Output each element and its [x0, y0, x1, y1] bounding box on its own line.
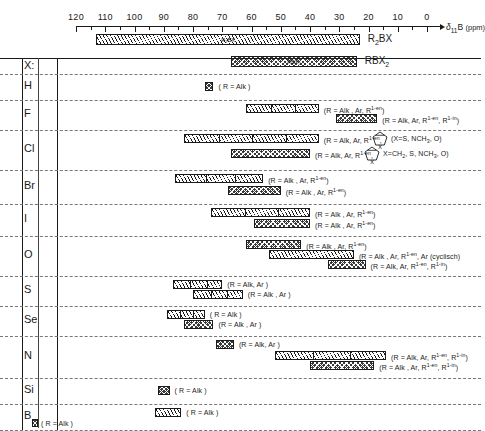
range-bar-hatch — [275, 351, 386, 360]
bar-segment-divider — [211, 291, 212, 298]
range-bar-cross — [184, 320, 213, 329]
bar-segment-divider — [180, 311, 181, 318]
bar-caption: (R = Alk , Ar, R1-en) — [306, 241, 367, 250]
bar-caption: (R = Alk , Ar, R1-en) — [315, 220, 376, 229]
bar-segment-divider — [227, 291, 228, 298]
bar-segment-divider — [206, 175, 207, 182]
grid-line-Se — [0, 306, 481, 307]
grid-line-Si — [0, 378, 481, 379]
grid-line-Br — [0, 170, 481, 171]
bar-caption: (R = Alk , Ar, R1-en) — [315, 209, 376, 218]
grid-line-I — [0, 204, 481, 205]
ring-annotation: (X=S, NCH3, O) — [391, 135, 442, 144]
grid-line-F — [0, 100, 481, 101]
row-label-N: N — [24, 349, 32, 361]
bar-segment-divider — [235, 175, 236, 182]
grid-line-S — [0, 276, 481, 277]
range-bar-hatch — [211, 208, 310, 217]
range-bar-cross — [32, 419, 38, 427]
bar-caption: (R = Alk , Ar, R1-en) — [324, 105, 385, 114]
label-column-right-rule — [57, 58, 58, 430]
bar-caption: ( R = Alk ) — [41, 420, 73, 427]
bar-segment-divider — [350, 352, 351, 359]
bar-caption: ( R = Alk ) — [218, 83, 250, 90]
bar-caption: (R = Alk, Ar, R1-en, R1-in) — [382, 115, 459, 124]
bar-segment-divider — [271, 105, 272, 112]
bar-caption: ( R = Alk ) — [210, 311, 242, 318]
bar-segment-divider — [190, 281, 191, 288]
grid-line-H — [0, 74, 481, 75]
range-bar-hatch — [173, 280, 223, 289]
range-bar-cross — [254, 219, 310, 228]
row-label-S: S — [24, 283, 31, 295]
bar-segment-divider — [245, 209, 246, 216]
bar-segment-divider — [219, 135, 220, 142]
range-bar-hatch — [167, 310, 205, 319]
bar-caption: (R = Alk , Ar, R1-en, R1-in) — [379, 362, 458, 371]
bar-caption: (R = Alk, Ar, R1-en, R1-in) — [371, 261, 448, 270]
bar-caption: (R = Alk , Ar, R1-en) — [286, 187, 347, 196]
range-bar-cross — [228, 186, 281, 195]
bar-segment-divider — [193, 311, 194, 318]
row-label-I: I — [24, 212, 27, 224]
grid-line-O — [0, 236, 481, 237]
bar-segment-divider — [295, 105, 296, 112]
ring-annotation: X=CH2, S, NCH3, O) — [383, 150, 449, 159]
vertical-guide-line — [38, 58, 39, 428]
row-label-Cl: Cl — [24, 142, 34, 154]
row-label-O: O — [24, 248, 33, 260]
range-bar-hatch — [175, 174, 263, 183]
range-bar-hatch — [269, 250, 354, 259]
bar-caption: (R = Alk, Ar ) — [227, 281, 268, 288]
range-bar-cross — [328, 260, 366, 269]
row-label-Si: Si — [24, 383, 34, 395]
range-bar-cross — [246, 240, 302, 249]
grid-line-Cl — [0, 130, 481, 131]
row-label-Br: Br — [24, 179, 35, 191]
bar-caption: (R = Alk, Ar, R1-en, R1-in) — [391, 352, 468, 361]
grid-line-top — [0, 58, 481, 59]
range-bar-hatch — [184, 134, 319, 143]
bar-segment-divider — [207, 281, 208, 288]
bar-segment-divider — [313, 352, 314, 359]
row-label-Se: Se — [24, 313, 37, 325]
row-label-X: X: — [24, 59, 34, 71]
range-bar-hatch — [246, 104, 319, 113]
bar-segment-divider — [278, 209, 279, 216]
range-bar-hatch — [155, 408, 181, 417]
bar-caption: (R = Alk, Ar ) — [239, 341, 280, 348]
bar-caption: (R = Alk , Ar ) — [248, 291, 291, 298]
bar-caption: (R = Alk , Ar, R1-en) — [268, 175, 329, 184]
grid-line-N — [0, 336, 481, 337]
range-bar-cross — [216, 340, 234, 349]
range-bar-cross — [336, 114, 377, 123]
row-label-F: F — [24, 107, 31, 119]
range-bar-cross — [310, 361, 374, 370]
label-column-left-rule — [22, 58, 23, 430]
bar-segment-divider — [286, 135, 287, 142]
bar-caption: ( R = Alk ) — [186, 409, 218, 416]
range-bar-hatch — [193, 290, 243, 299]
range-bar-cross — [158, 386, 170, 395]
grid-line-B — [0, 404, 481, 405]
range-bar-cross — [205, 82, 214, 91]
bar-segment-divider — [252, 135, 253, 142]
bar-caption: (R = Alk , Ar ) — [218, 321, 261, 328]
bar-caption: ( R = Alk ) — [175, 387, 207, 394]
row-label-B: B — [24, 409, 31, 421]
ring-structure-icon: X — [362, 144, 382, 164]
svg-text:X: X — [370, 159, 374, 165]
row-label-H: H — [24, 79, 32, 91]
range-bar-cross — [231, 149, 310, 158]
bar-caption: (R = Alk , Ar, R1-en, Ar (cyclisch) — [359, 251, 460, 260]
